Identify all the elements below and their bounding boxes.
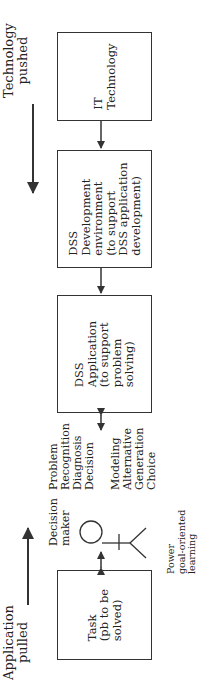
phases-intelligence: Problem Recognition Diagnosis Decision: [48, 423, 96, 490]
dss-application-box: DSS Application (to support problem solv…: [57, 295, 152, 413]
phases-design-choice: Modeling Alternative Generation Choice: [110, 428, 158, 490]
application-pulled-label: Application pulled: [2, 605, 29, 680]
it-technology-box: IT Technology: [57, 32, 152, 121]
technology-pushed-label: Technology pushed: [2, 23, 29, 98]
decision-maker-icon: [80, 521, 146, 558]
task-box: Task (pb to be solved): [57, 570, 152, 660]
dss-development-box: DSS Development environment (to support …: [57, 150, 152, 268]
decision-maker-label: Decision maker: [48, 498, 72, 546]
dss-diagram: Technology pushed Application pulled IT …: [0, 0, 213, 698]
decision-maker-traits: Power goal-oriented learning: [166, 510, 198, 574]
